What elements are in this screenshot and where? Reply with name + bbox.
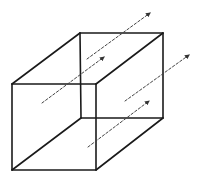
arrow-3-dashed-arrow-icon bbox=[125, 55, 189, 101]
cube-edge-depth-tr bbox=[96, 33, 163, 84]
diagram-canvas bbox=[0, 0, 200, 180]
cube-edge-depth-tl bbox=[12, 33, 80, 84]
cube-edge-depth-br bbox=[96, 118, 163, 170]
cube-wireframe bbox=[12, 33, 163, 170]
arrow-2-dashed-arrow-icon bbox=[42, 57, 104, 103]
cube-edge-depth-bl bbox=[12, 118, 81, 170]
arrow-4-dashed-arrow-icon bbox=[88, 101, 149, 147]
cube-edge-back-bl-tl bbox=[80, 33, 81, 118]
cube-diagram bbox=[0, 0, 200, 180]
arrow-1-dashed-arrow-icon bbox=[87, 13, 150, 59]
